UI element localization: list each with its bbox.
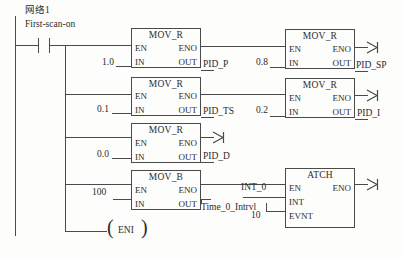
wire-in-mov-r-5 (270, 67, 285, 68)
pin-out: OUT (179, 57, 198, 67)
wire-out-underline-mov-r-1 (201, 70, 214, 71)
coil-eni[interactable]: ( ENI ) (107, 222, 151, 240)
pin-in: IN (289, 107, 299, 117)
pin-eno: ENO (179, 91, 198, 101)
contact-bar-left (38, 38, 39, 53)
pin-in: IN (135, 199, 145, 209)
block-mov-r-1[interactable]: MOV_R EN IN ENO OUT (131, 28, 201, 68)
pin-evnt: EVNT (289, 211, 313, 221)
block-title: MOV_R (286, 31, 354, 41)
block-title: MOV_R (286, 80, 354, 90)
wire-in-mov-r-1 (116, 66, 131, 67)
pin-eno: ENO (333, 93, 352, 103)
output-label-mov-r-2: PID_TS (203, 106, 234, 116)
input-value-mov-r-3: 0.0 (97, 149, 109, 159)
pin-int: INT (289, 197, 304, 207)
eno-arrow-mov-r-6 (366, 88, 380, 102)
evnt-value-atch-7: 10 (251, 210, 261, 220)
pin-en: EN (135, 43, 147, 53)
pin-out: OUT (333, 58, 352, 68)
output-label-mov-r-5: PID_SP (356, 60, 387, 70)
pin-eno: ENO (333, 44, 352, 54)
wire-en-mov-r-2 (65, 94, 131, 95)
ladder-diagram-canvas: 网络1 First-scan-on MOV_R EN IN ENO OUT 1.… (0, 0, 404, 258)
wire-evnt-atch-7 (266, 211, 285, 212)
eno-arrow-mov-r-5 (366, 40, 380, 54)
block-title: MOV_R (132, 79, 200, 89)
rung-wire-contact-to-branch (49, 45, 131, 46)
left-power-rail (15, 16, 16, 236)
wire-en-mov-r-3 (65, 137, 131, 138)
input-value-mov-r-5: 0.8 (256, 57, 268, 67)
wire-int-atch-7 (243, 197, 285, 198)
wire-out-underline-mov-r-5 (355, 71, 368, 72)
coil-paren-left: ( (107, 217, 114, 237)
pin-in: IN (135, 152, 145, 162)
block-title: MOV_R (132, 125, 200, 135)
pin-en: EN (289, 44, 301, 54)
output-label-mov-b-4: Time_0_Intrvl (201, 202, 256, 212)
pin-in: IN (135, 105, 145, 115)
wire-branch-to-eni (65, 231, 107, 232)
pin-en: EN (289, 183, 301, 193)
output-label-mov-r-6: PID_I (357, 108, 380, 118)
coil-label: ENI (118, 225, 134, 235)
pin-en: EN (289, 93, 301, 103)
wire-evnt-riser-atch-7 (266, 203, 267, 212)
pin-in: IN (135, 57, 145, 67)
pin-en: EN (135, 138, 147, 148)
wire-in-mov-r-3 (112, 158, 131, 159)
wire-eno-mov-r-1-to-mov-r-5 (201, 46, 285, 47)
pin-eno: ENO (179, 138, 198, 148)
output-label-mov-r-3: PID_D (203, 151, 230, 161)
wire-out-underline-mov-r-3 (201, 162, 214, 163)
block-atch-7[interactable]: ATCH EN INT EVNT ENO (285, 168, 355, 228)
wire-in-mov-r-6 (270, 116, 285, 117)
pin-out: OUT (179, 199, 198, 209)
wire-out-underline-mov-b-4 (201, 199, 211, 200)
contact-label: First-scan-on (25, 20, 75, 30)
input-value-mov-r-6: 0.2 (256, 105, 268, 115)
pin-eno: ENO (333, 183, 352, 193)
block-mov-r-6[interactable]: MOV_R EN IN ENO OUT (285, 78, 355, 118)
block-title: MOV_B (132, 172, 200, 182)
wire-out-underline-mov-r-6 (355, 119, 368, 120)
output-label-mov-r-1: PID_P (203, 59, 228, 69)
rung-wire-rail-to-contact (15, 45, 38, 46)
network-label: 网络1 (25, 6, 50, 16)
pin-en: EN (135, 185, 147, 195)
wire-in-mov-r-2 (112, 113, 131, 114)
eno-arrow-atch-7 (366, 177, 380, 191)
wire-out-drop-mov-b-4 (201, 199, 202, 204)
eno-arrow-mov-r-3 (212, 130, 226, 144)
wire-eno-mov-r-2-to-mov-r-6 (201, 94, 285, 95)
pin-out: OUT (333, 107, 352, 117)
pin-out: OUT (179, 152, 198, 162)
block-mov-r-5[interactable]: MOV_R EN IN ENO OUT (285, 29, 355, 69)
wire-en-mov-b-4 (65, 184, 131, 185)
coil-paren-right: ) (141, 217, 148, 237)
block-mov-r-2[interactable]: MOV_R EN IN ENO OUT (131, 77, 201, 116)
int-value-atch-7: INT_0 (241, 182, 266, 192)
pin-eno: ENO (179, 43, 198, 53)
wire-in-mov-b-4 (113, 199, 131, 200)
pin-out: OUT (179, 105, 198, 115)
input-value-mov-b-4: 100 (92, 187, 106, 197)
block-title: ATCH (286, 170, 354, 180)
block-title: MOV_R (132, 30, 200, 40)
wire-out-underline-mov-r-2 (201, 117, 214, 118)
pin-eno: ENO (179, 185, 198, 195)
block-mov-r-3[interactable]: MOV_R EN IN ENO OUT (131, 123, 201, 163)
input-value-mov-r-2: 0.1 (97, 104, 109, 114)
pin-in: IN (289, 58, 299, 68)
pin-en: EN (135, 91, 147, 101)
input-value-mov-r-1: 1.0 (102, 57, 114, 67)
block-mov-b-4[interactable]: MOV_B EN IN ENO OUT (131, 170, 201, 210)
